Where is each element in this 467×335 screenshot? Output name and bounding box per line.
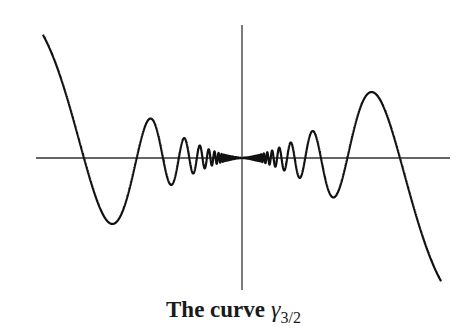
- caption-text: The curve: [166, 297, 265, 322]
- curve-plot: [0, 0, 467, 300]
- caption-subscript: 3/2: [281, 309, 301, 326]
- figure-caption: The curveγ3/2: [0, 296, 467, 327]
- caption-symbol: γ3/2: [271, 296, 301, 322]
